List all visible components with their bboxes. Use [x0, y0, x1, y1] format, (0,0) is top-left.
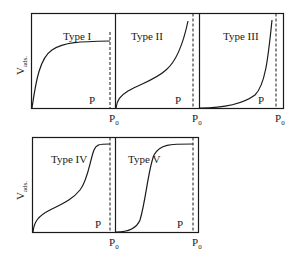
svg-text:Vads.: Vads.: [14, 56, 29, 75]
y-axis-label-bottom: Vads.: [14, 181, 29, 200]
label-type-1: Type I: [63, 30, 92, 42]
label-type-4: Type IV: [51, 153, 87, 165]
x-label-1: P: [89, 94, 95, 106]
label-type-3: Type III: [223, 30, 259, 42]
y-axis-label-top: Vads.: [14, 56, 29, 75]
p0-label-1: P0: [109, 112, 119, 127]
bottom-row: [33, 138, 199, 233]
p0-label-5: P0: [192, 236, 202, 251]
label-type-5: Type V: [128, 153, 160, 165]
x-label-3: P: [258, 94, 264, 106]
curve-type-1: [32, 41, 110, 108]
p0-label-2: P0: [192, 112, 202, 127]
p0-label-3: P0: [275, 112, 285, 127]
top-row: [32, 14, 284, 109]
x-label-4: P: [95, 218, 101, 230]
x-label-5: P: [177, 218, 183, 230]
label-type-2: Type II: [131, 30, 163, 42]
isotherm-diagram: Vads. Vads. Type I Type II Type III Type…: [0, 0, 297, 259]
svg-text:Vads.: Vads.: [14, 181, 29, 200]
x-label-2: P: [175, 94, 181, 106]
p0-label-4: P0: [109, 236, 119, 251]
